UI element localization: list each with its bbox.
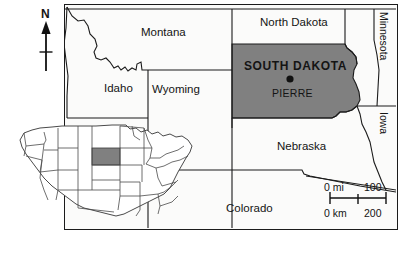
scale-km-max: 200 xyxy=(364,208,382,219)
scale-km-zero: 0 km xyxy=(324,208,347,219)
scale-miles-max: 100 xyxy=(364,182,382,193)
label-iowa: Iowa xyxy=(379,112,390,134)
united-states-inset-map xyxy=(20,125,192,216)
scale-bar-icon xyxy=(330,192,386,204)
north-arrow-icon xyxy=(40,21,53,71)
pierre-capital-dot xyxy=(286,75,293,82)
map-figure: Montana North Dakota Idaho Wyoming SOUTH… xyxy=(0,0,407,264)
label-montana: Montana xyxy=(141,27,186,39)
scale-miles-zero: 0 mi xyxy=(324,182,344,193)
label-minnesota: Minnesota xyxy=(379,12,390,60)
north-arrow-label: N xyxy=(41,8,50,20)
idaho-montana-border xyxy=(67,7,148,71)
idaho-west-edge xyxy=(64,7,68,118)
wyoming-border xyxy=(148,70,232,128)
label-nebraska: Nebraska xyxy=(277,141,326,153)
label-north-dakota: North Dakota xyxy=(260,17,328,29)
label-colorado: Colorado xyxy=(226,203,273,215)
inset-south-dakota-highlight xyxy=(92,148,120,165)
south-dakota-shape xyxy=(232,44,360,118)
label-south-dakota: SOUTH DAKOTA xyxy=(244,60,347,72)
map-vector-layer xyxy=(0,0,407,264)
label-idaho: Idaho xyxy=(104,83,133,95)
label-wyoming: Wyoming xyxy=(152,84,200,96)
label-pierre: PIERRE xyxy=(272,88,313,99)
